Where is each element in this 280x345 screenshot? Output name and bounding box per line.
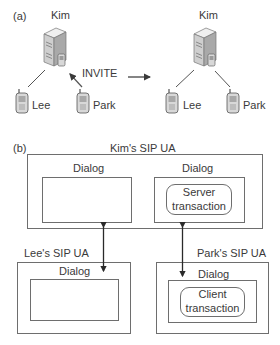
connectors-overlay bbox=[0, 0, 280, 345]
link-lee-kim-before bbox=[28, 70, 45, 87]
link-lee-kim-after bbox=[176, 70, 194, 87]
invite-arrow bbox=[70, 74, 82, 87]
link-park-kim-after bbox=[215, 71, 230, 87]
